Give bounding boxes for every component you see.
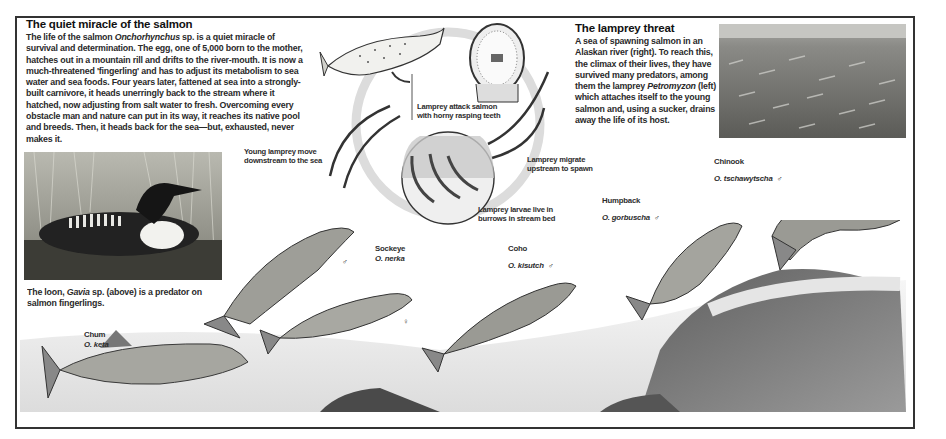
spawning-salmon-photo [719, 24, 906, 138]
sockeye-male-symbol: ♂ [342, 257, 348, 267]
lamprey-threat-title: The lamprey threat [575, 22, 735, 35]
intro-title: The quiet miracle of the salmon [26, 18, 326, 31]
male-symbol: ♂ [654, 213, 660, 222]
salmon-stream-illustration [20, 220, 906, 412]
species-label-humpback: Humpback O. gorbuscha ♂ [602, 196, 660, 224]
label-line: Young lamprey move [244, 147, 322, 156]
intro-body: The life of the salmon Onchorhynchus sp.… [26, 31, 308, 144]
label-young-lamprey: Young lamprey move downstream to the sea [244, 147, 322, 165]
chinook-salmon-illustration [772, 220, 900, 270]
species-latin-name: O. kisutch [508, 261, 544, 270]
species-common-name: Humpback [602, 196, 660, 206]
label-lamprey-attack: Lamprey attack salmon with horny rasping… [417, 102, 500, 120]
label-line: upstream to spawn [527, 164, 593, 173]
species-latin-name: O. tschawytscha [714, 174, 773, 183]
genus-name: Petromyzon [647, 80, 696, 91]
label-line: downstream to the sea [244, 156, 322, 165]
species-latin-name: O. keta [84, 340, 109, 350]
label-line: Lamprey migrate [527, 155, 593, 164]
label-line: Lamprey attack salmon [417, 102, 500, 111]
salmon-illustration [320, 28, 444, 82]
species-latin-name: O. gorbuscha [602, 213, 650, 222]
species-common-name: Chum [84, 330, 109, 340]
sockeye-female-symbol: ♀ [403, 317, 409, 327]
male-symbol: ♂ [777, 174, 783, 183]
species-label-chum: Chum O. keta [84, 330, 109, 349]
intro-block: The quiet miracle of the salmon The life… [26, 18, 326, 144]
male-symbol: ♂ [548, 261, 554, 270]
intro-text-part: The life of the salmon [26, 31, 115, 42]
lamprey-threat-block: The lamprey threat A sea of spawning sal… [575, 22, 735, 125]
lamprey-threat-body: A sea of spawning salmon in an Alaskan r… [575, 35, 727, 125]
lamprey-mouth-illustration [470, 24, 524, 102]
species-common-name: Coho [508, 244, 554, 254]
genus-name: Onchorhynchus [115, 31, 180, 42]
lamprey-lifecycle-diagram [300, 16, 570, 236]
label-line: Lamprey larvae live in [478, 205, 555, 214]
species-label-chinook: Chinook O. tschawytscha ♂ [714, 157, 782, 185]
species-label-sockeye: Sockeye O. nerka [375, 244, 405, 263]
label-line: with horny rasping teeth [417, 111, 500, 120]
label-lamprey-migrate: Lamprey migrate upstream to spawn [527, 155, 593, 173]
species-common-name: Chinook [714, 157, 782, 167]
species-latin-name: O. nerka [375, 254, 405, 264]
species-label-coho: Coho O. kisutch ♂ [508, 244, 554, 272]
intro-text-part: sp. is a quiet miracle of survival and d… [26, 31, 303, 144]
species-common-name: Sockeye [375, 244, 405, 254]
